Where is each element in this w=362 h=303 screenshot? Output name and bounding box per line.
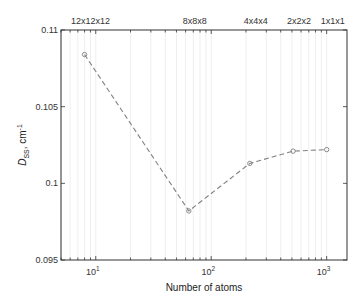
x-tick-labels: 101102103	[86, 265, 331, 277]
chart: 0.0950.10.1050.11 101102103 12x12x128x8x…	[0, 0, 362, 303]
y-tick-label: 0.105	[35, 102, 58, 112]
axis-ticks	[61, 30, 347, 260]
y-tick-label: 0.11	[41, 25, 58, 35]
x-axis-title: Number of atoms	[166, 282, 243, 293]
top-axis-label: 4x4x4	[244, 16, 268, 26]
plot-frame	[61, 30, 347, 260]
y-tick-label: 0.1	[45, 178, 58, 188]
x-tick-label: 103	[317, 265, 331, 277]
top-axis-label: 2x2x2	[287, 16, 311, 26]
grid-lines	[61, 30, 327, 260]
y-tick-labels: 0.0950.10.1050.11	[35, 25, 58, 265]
top-axis-labels: 12x12x128x8x84x4x42x2x21x1x1	[71, 16, 345, 26]
top-axis-label: 12x12x12	[71, 16, 110, 26]
top-axis-label: 8x8x8	[183, 16, 207, 26]
x-tick-label: 101	[86, 265, 100, 277]
y-axis-title: DSS, cm-1	[16, 124, 30, 166]
top-axis-label: 1x1x1	[321, 16, 345, 26]
x-tick-label: 102	[201, 265, 215, 277]
y-tick-label: 0.095	[35, 255, 58, 265]
